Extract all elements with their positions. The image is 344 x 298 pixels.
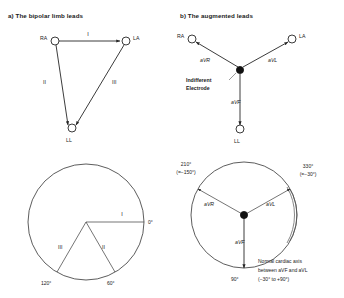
circle-b-lead-label-aVR: aVR (204, 201, 214, 207)
panel-b-electrode-la (288, 35, 296, 43)
circle-b-angle-label-210: 210° (181, 161, 191, 167)
panel-b-lead-label-aVR: aVR (200, 57, 210, 63)
circle-a-angle-label-60: 60° (107, 280, 115, 286)
panel-b-indifferent-electrode-label-line2: Electrode (186, 85, 210, 91)
circle-b-angle-label-90: 90° (231, 276, 239, 282)
ecg-leads-figure: a) The bipolar limb leads RA LA LL I II … (0, 0, 344, 298)
panel-b-lead-label-aVF: aVF (231, 99, 241, 105)
panel-a-electrode-ll (68, 124, 76, 132)
panel-b-lead-label-aVL: aVL (268, 57, 277, 63)
panel-a-electrode-la (122, 37, 130, 45)
circle-b-angle-alt-210: (=−150°) (176, 169, 196, 175)
circle-b-angle-alt-330: (=−30°) (300, 171, 317, 177)
panel-a-lead-label-II: II (43, 79, 46, 85)
panel-b-indifferent-electrode-label-line1: Indifferent (186, 77, 212, 83)
circle-b-center-dot (240, 211, 247, 218)
circle-a-lead-label-II: II (102, 244, 105, 250)
circle-b-lead-label-aVF: aVF (235, 239, 245, 245)
circle-b-caption-line3: (−30° to +90°) (258, 276, 290, 282)
panel-a-label-ra: RA (40, 35, 48, 41)
panel-b-electrode-ra (188, 35, 196, 43)
circle-b-caption-line1: Normal cardiac axis (258, 258, 302, 264)
circle-a-angle-label-120: 120° (41, 280, 51, 286)
panel-b-electrode-ll (236, 125, 244, 133)
circle-b-lead-label-aVL: aVL (266, 201, 275, 207)
panel-a-label-la: LA (133, 35, 140, 41)
circle-a-lead-label-III: III (58, 244, 63, 250)
circle-a-lead-label-I: I (121, 211, 123, 217)
panel-a-lead-label-III: III (112, 79, 117, 85)
panel-a-lead-label-I: I (87, 31, 89, 37)
panel-a-label-ll: LL (66, 137, 72, 143)
panel-b-indifferent-electrode-dot (236, 66, 243, 73)
panel-b-label-la: LA (299, 33, 306, 39)
circle-b-caption-line2: between aVF and aVL (258, 267, 308, 273)
panel-b-label-ll: LL (234, 138, 240, 144)
panel-b-title: b) The augmented leads (180, 12, 253, 19)
panel-a-title: a) The bipolar limb leads (8, 12, 84, 19)
figure-background (0, 0, 344, 298)
panel-a-electrode-ra (51, 37, 59, 45)
panel-b-label-ra: RA (177, 33, 185, 39)
circle-b-angle-label-330: 330° (303, 163, 313, 169)
circle-a-angle-label-0: 0° (148, 219, 153, 225)
